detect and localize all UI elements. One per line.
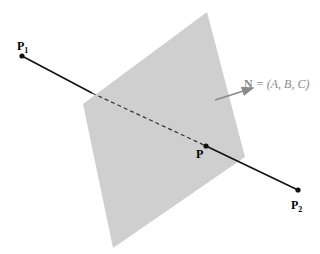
plane: [83, 12, 245, 248]
diagram-canvas: P1 P P2 N = (A, B, C): [0, 0, 320, 254]
label-p: P: [196, 147, 203, 161]
point-p: [203, 143, 208, 148]
normal-label: N = (A, B, C): [244, 77, 309, 91]
label-p1: P1: [17, 39, 28, 55]
point-p2: [295, 187, 300, 192]
label-p2: P2: [291, 198, 302, 214]
line-segment-front: [22, 56, 92, 93]
